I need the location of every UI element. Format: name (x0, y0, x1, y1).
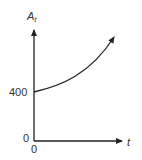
y-tick-400: 400 (9, 86, 27, 98)
x-tick-0: 0 (31, 143, 37, 155)
y-axis-label-main: A (26, 10, 34, 22)
y-tick-0: 0 (23, 132, 29, 144)
growth-curve (34, 37, 114, 92)
x-axis-label: t (127, 136, 131, 148)
growth-chart: At 400 0 0 t (0, 0, 142, 160)
y-axis-label-subscript: t (34, 15, 37, 24)
y-axis-label: At (26, 10, 37, 24)
